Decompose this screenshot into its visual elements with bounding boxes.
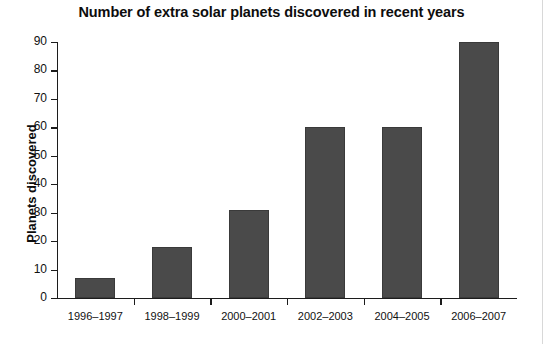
y-axis-tick: 90 (51, 42, 57, 43)
bar (75, 278, 115, 298)
bar (152, 247, 192, 298)
y-axis-tick-label: 60 (17, 119, 47, 133)
y-axis-tick: 20 (51, 241, 57, 242)
x-axis-tick (364, 298, 365, 305)
x-axis-label: 1998–1999 (144, 310, 199, 322)
y-axis-tick: 60 (51, 127, 57, 128)
y-axis-tick: 50 (51, 156, 57, 157)
y-axis-tick: 80 (51, 70, 57, 71)
bar (305, 127, 345, 298)
y-axis-tick: 70 (51, 99, 57, 100)
bar (459, 42, 499, 298)
y-axis-tick: 10 (51, 270, 57, 271)
y-axis-tick: 30 (51, 213, 57, 214)
y-axis-tick-label: 90 (17, 34, 47, 48)
x-axis-label: 2002–2003 (298, 310, 353, 322)
x-axis-label: 2000–2001 (221, 310, 276, 322)
x-axis-label: 1996–1997 (68, 310, 123, 322)
x-axis-tick (287, 298, 288, 305)
x-axis-label: 2006–2007 (451, 310, 506, 322)
y-axis-line (57, 42, 58, 299)
y-axis-tick: 40 (51, 184, 57, 185)
y-axis-tick-label: 10 (17, 262, 47, 276)
x-axis-tick (440, 298, 441, 305)
y-axis-tick-label: 40 (17, 176, 47, 190)
y-axis-tick: 0 (51, 298, 57, 299)
chart-title: Number of extra solar planets discovered… (0, 4, 543, 20)
x-axis-tick (134, 298, 135, 305)
chart-figure: Number of extra solar planets discovered… (0, 0, 543, 344)
y-axis-tick-label: 70 (17, 91, 47, 105)
y-axis-tick-label: 80 (17, 62, 47, 76)
bar (382, 127, 422, 298)
y-axis-tick-label: 50 (17, 148, 47, 162)
y-axis-tick-label: 20 (17, 233, 47, 247)
y-axis-tick-label: 0 (17, 290, 47, 304)
plot-area: 0102030405060708090 1996–19971998–199920… (57, 42, 517, 298)
x-axis-label: 2004–2005 (374, 310, 429, 322)
x-axis-tick (210, 298, 211, 305)
bar (229, 210, 269, 298)
y-axis-tick-label: 30 (17, 205, 47, 219)
